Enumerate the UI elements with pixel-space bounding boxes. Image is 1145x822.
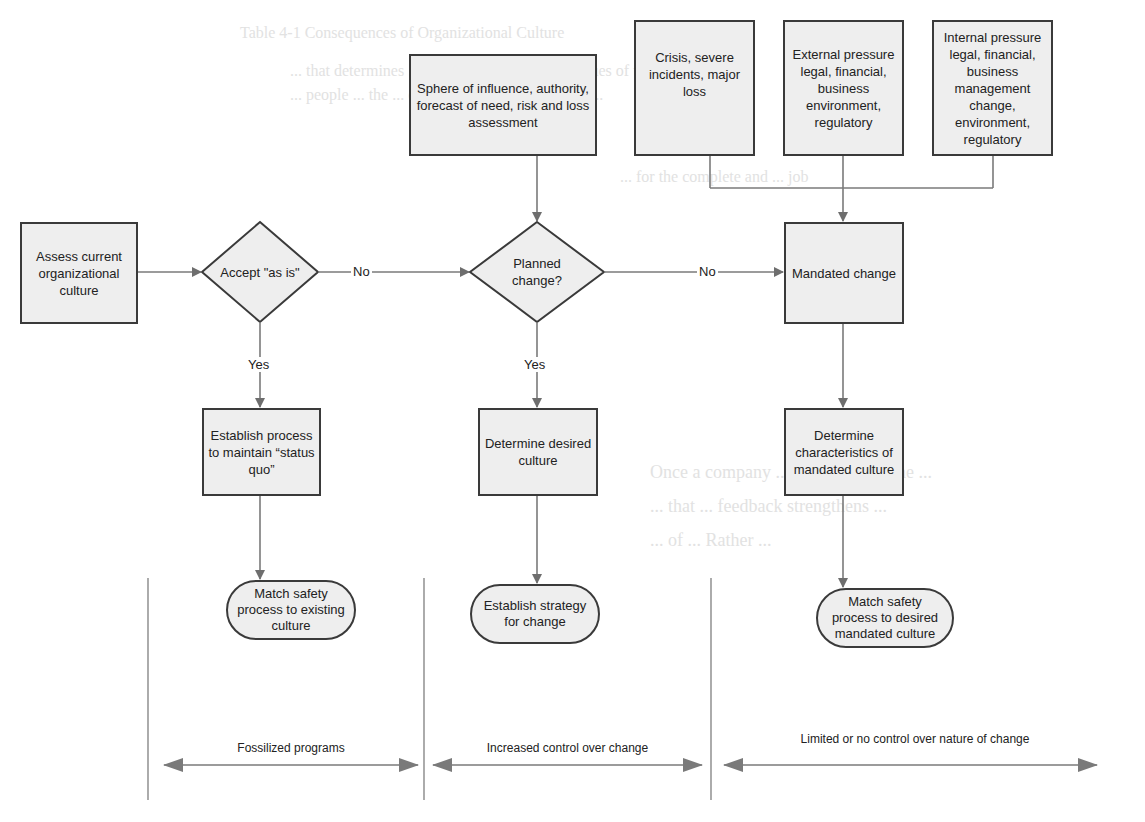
band-label-increased: Increased control over change bbox=[433, 740, 702, 756]
external-pressure-box: External pressure legal, financial, busi… bbox=[783, 20, 904, 156]
edge-label-accept-no: No bbox=[351, 264, 372, 279]
establish-strategy-terminator: Establish strategy for change bbox=[470, 584, 600, 644]
accept-as-is-label: Accept "as is" bbox=[212, 252, 308, 292]
edge-label-accept-yes: Yes bbox=[246, 357, 271, 372]
band-label-limited: Limited or no control over nature of cha… bbox=[795, 731, 1035, 747]
planned-change-label: Planned change? bbox=[490, 252, 584, 292]
mandated-change-box: Mandated change bbox=[784, 222, 904, 324]
band-label-fossilized: Fossilized programs bbox=[164, 740, 418, 756]
determine-characteristics-box: Determine characteristics of mandated cu… bbox=[784, 408, 904, 496]
assess-culture-box: Assess current organizational culture bbox=[20, 222, 138, 324]
edge-label-planned-no: No bbox=[697, 264, 718, 279]
sphere-of-influence-box: Sphere of influence, authority, forecast… bbox=[409, 54, 597, 156]
edge-label-planned-yes: Yes bbox=[522, 357, 547, 372]
crisis-box: Crisis, severe incidents, major loss bbox=[634, 20, 755, 156]
match-existing-terminator: Match safety process to existing culture bbox=[226, 580, 356, 640]
determine-desired-box: Determine desired culture bbox=[478, 408, 598, 496]
match-mandated-terminator: Match safety process to desired mandated… bbox=[816, 588, 954, 648]
internal-pressure-box: Internal pressure legal, financial, busi… bbox=[932, 20, 1053, 156]
establish-process-box: Establish process to maintain “status qu… bbox=[202, 408, 321, 496]
